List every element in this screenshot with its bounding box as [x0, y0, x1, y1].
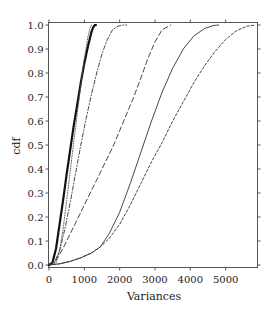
y-axis-label: cdf	[10, 136, 23, 154]
y-tick-label: 0.6	[28, 116, 44, 127]
x-tick-label: 5000	[213, 274, 238, 285]
plot-frame	[49, 23, 258, 268]
x-tick-label: 0	[46, 274, 52, 285]
y-tick-label: 0.9	[28, 44, 44, 55]
x-tick-label: 1000	[72, 274, 97, 285]
x-tick-label: 2000	[107, 274, 132, 285]
y-tick-label: 0.8	[28, 68, 44, 79]
y-tick-label: 0.0	[28, 260, 44, 271]
x-tick-label: 3000	[142, 274, 167, 285]
y-tick-label: 0.7	[28, 92, 44, 103]
y-tick-label: 1.0	[28, 20, 44, 31]
x-tick-label: 4000	[178, 274, 203, 285]
y-tick-label: 0.4	[28, 164, 44, 175]
y-tick-label: 0.1	[28, 236, 44, 247]
cdf-chart: 010002000300040005000 0.00.10.20.30.40.5…	[0, 0, 273, 312]
y-tick-label: 0.5	[28, 140, 44, 151]
x-axis-label: Variances	[126, 290, 182, 303]
y-tick-label: 0.3	[28, 188, 44, 199]
y-tick-label: 0.2	[28, 212, 44, 223]
